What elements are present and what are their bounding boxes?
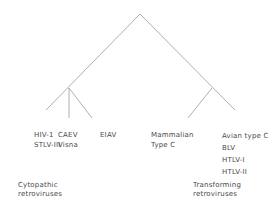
leaf-caev: CAEV Visna bbox=[58, 130, 78, 150]
leaf-hiv: HIV-1 STLV-III bbox=[34, 130, 61, 150]
branch-root-right bbox=[140, 14, 235, 110]
branch-root-left bbox=[46, 14, 140, 110]
leaf-eiav: EIAV bbox=[100, 130, 116, 140]
leaf-avian: Avian type C BLV HTLV-I HTLV-II bbox=[222, 130, 269, 178]
branch-eiav bbox=[69, 88, 92, 118]
group-label-cytopathic: Cytopathic retroviruses bbox=[18, 181, 62, 199]
branch-mammalian bbox=[188, 88, 212, 118]
group-label-transforming: Transforming retroviruses bbox=[193, 181, 241, 199]
leaf-mammalian: Mammalian Type C bbox=[151, 130, 194, 150]
